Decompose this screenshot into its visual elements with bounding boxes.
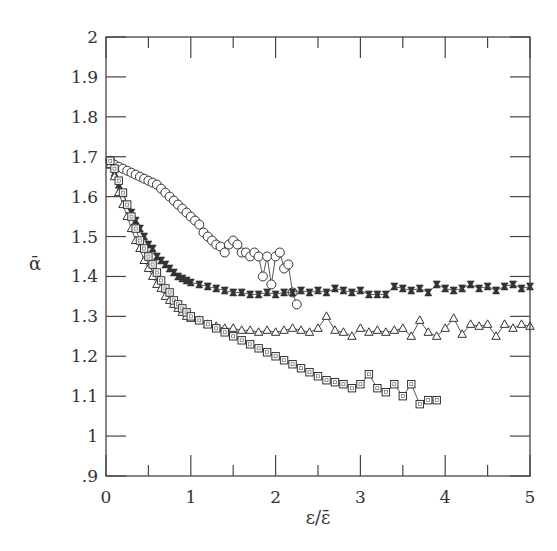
filled-marker xyxy=(518,285,525,292)
square-marker xyxy=(213,325,220,332)
filled-marker xyxy=(442,285,449,292)
filled-marker xyxy=(340,287,347,294)
triangle-marker xyxy=(229,324,237,332)
circle-marker xyxy=(263,252,272,261)
y-tick-label: 1.3 xyxy=(71,306,98,326)
square-marker xyxy=(323,377,330,384)
y-tick-label: 1.7 xyxy=(71,147,98,167)
triangle-marker xyxy=(356,324,364,332)
filled-marker xyxy=(467,281,474,288)
x-tick-label: 5 xyxy=(525,487,536,507)
square-marker xyxy=(280,357,287,364)
square-marker xyxy=(107,157,114,164)
y-tick-label: 1.8 xyxy=(71,107,98,127)
y-tick-label: 1.1 xyxy=(71,386,98,406)
square-marker xyxy=(140,245,147,252)
filled-marker xyxy=(331,285,338,292)
square-marker xyxy=(340,381,347,388)
filled-marker xyxy=(213,285,220,292)
y-tick-label: 2 xyxy=(87,27,98,47)
square-marker xyxy=(153,269,160,276)
square-marker xyxy=(272,353,279,360)
square-marker xyxy=(246,341,253,348)
triangle-marker xyxy=(509,324,517,332)
filled-marker xyxy=(408,287,415,294)
triangle-marker xyxy=(331,326,339,334)
filled-marker xyxy=(501,283,508,290)
y-tick-label: 1.5 xyxy=(71,227,98,247)
square-marker xyxy=(425,396,432,403)
filled-marker xyxy=(315,287,322,294)
filled-marker xyxy=(399,285,406,292)
x-tick-label: 2 xyxy=(270,487,281,507)
filled-marker xyxy=(493,287,500,294)
square-marker xyxy=(136,237,143,244)
square-marker xyxy=(408,381,415,388)
square-marker xyxy=(433,396,440,403)
filled-marker xyxy=(425,289,432,296)
filled-marker xyxy=(476,285,483,292)
triangle-marker xyxy=(466,320,474,328)
x-tick-label: 1 xyxy=(185,487,196,507)
x-axis-label: ε/ε̄ xyxy=(306,507,331,528)
series-filled-squares xyxy=(107,161,534,298)
y-tick-label: 1.9 xyxy=(71,67,98,87)
filled-marker xyxy=(221,287,228,294)
y-tick-label: 1.4 xyxy=(71,266,98,286)
plot-frame xyxy=(106,37,530,476)
square-marker xyxy=(187,313,194,320)
square-marker xyxy=(196,317,203,324)
square-marker xyxy=(263,349,270,356)
y-axis-label: ᾱ xyxy=(29,253,41,274)
chart: 012345.911.11.21.31.41.51.61.71.81.92 ε/… xyxy=(0,0,557,551)
filled-marker xyxy=(416,285,423,292)
square-marker xyxy=(289,361,296,368)
square-marker xyxy=(145,253,152,260)
circle-marker xyxy=(292,300,301,309)
y-tick-label: 1 xyxy=(87,426,98,446)
y-tick-label: 1.6 xyxy=(71,187,98,207)
filled-marker xyxy=(348,289,355,296)
square-marker xyxy=(124,201,131,208)
filled-marker xyxy=(196,281,203,288)
square-marker xyxy=(255,345,262,352)
square-marker xyxy=(348,385,355,392)
square-marker xyxy=(166,289,173,296)
square-marker xyxy=(374,385,381,392)
square-marker xyxy=(238,337,245,344)
triangle-marker xyxy=(449,314,457,322)
square-marker xyxy=(111,165,118,172)
filled-marker xyxy=(204,283,211,290)
filled-marker xyxy=(323,289,330,296)
square-marker xyxy=(132,225,139,232)
x-tick-label: 4 xyxy=(440,487,451,507)
square-marker xyxy=(230,333,237,340)
data-series xyxy=(106,156,534,408)
square-marker xyxy=(119,189,126,196)
triangle-marker xyxy=(483,320,491,328)
square-marker xyxy=(357,381,364,388)
filled-marker xyxy=(149,245,156,252)
square-marker xyxy=(115,177,122,184)
circle-marker xyxy=(275,248,284,257)
square-marker xyxy=(297,365,304,372)
square-marker xyxy=(416,400,423,407)
square-marker xyxy=(306,369,313,376)
triangle-marker xyxy=(322,312,330,320)
square-marker xyxy=(399,392,406,399)
triangle-marker xyxy=(246,326,254,334)
triangle-marker xyxy=(263,326,271,334)
circle-marker xyxy=(254,252,263,261)
series-triangles xyxy=(106,160,534,339)
square-marker xyxy=(157,277,164,284)
filled-marker xyxy=(264,289,271,296)
axes: 012345.911.11.21.31.41.51.61.71.81.92 xyxy=(71,27,535,507)
circle-marker xyxy=(267,280,276,289)
circle-marker xyxy=(284,260,293,269)
square-marker xyxy=(365,371,372,378)
square-marker xyxy=(204,321,211,328)
triangle-marker xyxy=(416,316,424,324)
triangle-marker xyxy=(500,320,508,328)
filled-marker xyxy=(391,283,398,290)
square-marker xyxy=(128,213,135,220)
